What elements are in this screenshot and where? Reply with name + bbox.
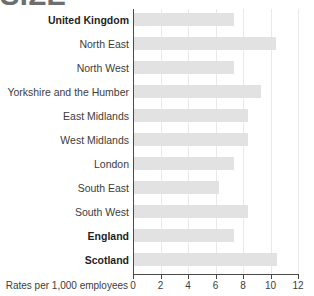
category-label: Yorkshire and the Humber	[3, 86, 129, 99]
bar	[134, 61, 234, 74]
bar	[134, 109, 248, 122]
x-tick-label-0: 0	[130, 280, 136, 292]
x-tick-8	[243, 274, 244, 279]
category-label: East Midlands	[3, 110, 129, 123]
category-label: Scotland	[3, 254, 129, 267]
bar	[134, 37, 276, 50]
y-axis-line	[133, 9, 134, 274]
x-tick-0	[133, 274, 134, 279]
gridline-12	[298, 9, 299, 274]
chart-title-text: SIZE	[0, 0, 66, 9]
bar	[134, 157, 234, 170]
bar	[134, 205, 248, 218]
category-label: North West	[3, 62, 129, 75]
x-tick-12	[298, 274, 299, 279]
category-label: West Midlands	[3, 134, 129, 147]
bar	[134, 133, 248, 146]
x-tick-label-8: 8	[240, 280, 246, 292]
x-tick-label-6: 6	[213, 280, 219, 292]
category-label: North East	[3, 38, 129, 51]
bar	[134, 85, 261, 98]
category-label: South East	[3, 182, 129, 195]
x-axis-caption: Rates per 1,000 employees	[6, 280, 128, 292]
x-tick-label-2: 2	[158, 280, 164, 292]
bar	[134, 181, 219, 194]
x-tick-4	[188, 274, 189, 279]
x-tick-6	[216, 274, 217, 279]
bar	[134, 13, 234, 26]
x-tick-label-4: 4	[185, 280, 191, 292]
category-label: London	[3, 158, 129, 171]
bar-chart: United KingdomNorth EastNorth WestYorksh…	[0, 9, 314, 296]
bar	[134, 229, 234, 242]
category-label: England	[3, 230, 129, 243]
category-label: South West	[3, 206, 129, 219]
category-label: United Kingdom	[3, 14, 129, 27]
x-tick-10	[271, 274, 272, 279]
x-tick-label-12: 12	[292, 280, 303, 292]
bar	[134, 253, 277, 266]
x-tick-label-10: 10	[265, 280, 276, 292]
chart-title-clipped: SIZE	[0, 0, 314, 9]
x-tick-2	[161, 274, 162, 279]
